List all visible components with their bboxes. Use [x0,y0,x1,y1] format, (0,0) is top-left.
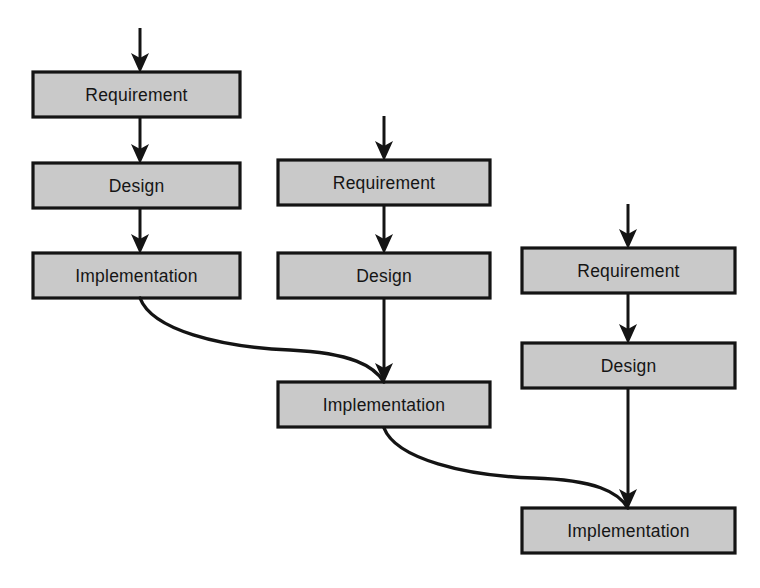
cycle-1-group: Requirement Design Implementation [33,28,240,298]
cycle-3-entry-arrow [619,204,637,249]
c1-requirement-to-design-arrow [131,117,149,164]
c1-design-box[interactable]: Design [33,163,240,208]
c2-implementation-label: Implementation [323,395,445,415]
c3-requirement-box[interactable]: Requirement [522,248,735,293]
c2-implementation-box[interactable]: Implementation [278,382,490,427]
c2-design-to-implementation-arrow [375,298,393,383]
c2-requirement-box[interactable]: Requirement [278,160,490,205]
c3-design-to-implementation-arrow [619,388,637,509]
cycle-3-group: Requirement Design Implementation [522,204,735,553]
c1-design-to-implementation-arrow [131,208,149,254]
c1-implementation-box[interactable]: Implementation [33,253,240,298]
connector-cycle2-to-cycle3 [384,428,628,508]
c2-requirement-label: Requirement [333,173,435,193]
c3-implementation-box[interactable]: Implementation [522,508,735,553]
c2-design-label: Design [356,266,412,286]
c1-requirement-box[interactable]: Requirement [33,72,240,117]
c3-requirement-to-design-arrow [619,293,637,344]
diagram-canvas: Requirement Design Implementation [0,0,760,588]
c1-implementation-label: Implementation [75,266,197,286]
c3-design-box[interactable]: Design [522,343,735,388]
c3-implementation-label: Implementation [567,521,689,541]
c2-design-box[interactable]: Design [278,253,490,298]
cycle-1-entry-arrow [131,28,149,73]
connector-cycle1-to-cycle2 [140,298,384,382]
c2-requirement-to-design-arrow [375,205,393,254]
c1-requirement-label: Requirement [85,85,187,105]
c3-design-label: Design [601,356,657,376]
c3-requirement-label: Requirement [577,261,679,281]
c1-design-label: Design [109,176,165,196]
cycle-2-entry-arrow [375,116,393,161]
lifecycle-diagram: Requirement Design Implementation [0,0,760,588]
